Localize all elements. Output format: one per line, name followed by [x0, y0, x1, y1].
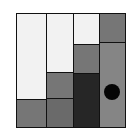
block-c4-top[interactable] [99, 13, 126, 43]
puzzle-board [16, 13, 126, 128]
block-c2-bottom[interactable] [46, 98, 74, 128]
block-c1-bottom[interactable] [16, 99, 47, 128]
block-c2-mid[interactable] [46, 72, 74, 99]
block-c2-top[interactable] [46, 13, 74, 73]
block-c3-mid[interactable] [73, 44, 100, 74]
block-c3-top[interactable] [73, 13, 100, 45]
black-circle-piece-icon[interactable] [104, 84, 120, 100]
block-c1-top[interactable] [16, 13, 47, 100]
block-c3-bottom[interactable] [73, 73, 100, 128]
